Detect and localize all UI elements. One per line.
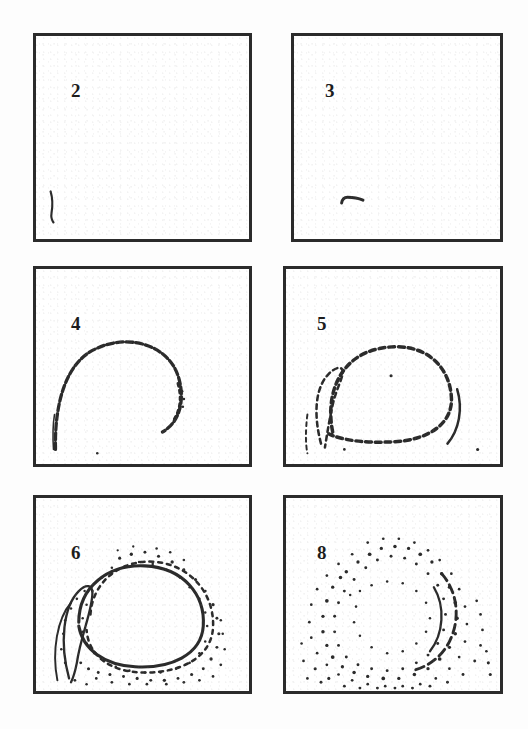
panel-label-4: 4	[71, 314, 81, 333]
panel-2-plot	[36, 36, 249, 239]
figure-sheet: 2 3 4	[0, 0, 528, 729]
panel-8-scatter	[300, 537, 492, 689]
panel-8: 8	[283, 495, 503, 694]
panel-label-3: 3	[325, 81, 335, 100]
panel-label-2: 2	[71, 81, 81, 100]
panel-6-plot	[36, 498, 249, 691]
panel-label-5: 5	[317, 314, 327, 333]
panel-5-plot	[286, 269, 500, 464]
panel-3-plot	[294, 36, 500, 239]
panel-8-plot	[286, 498, 500, 691]
panel-label-8: 8	[317, 543, 327, 562]
panel-4: 4	[33, 266, 252, 467]
panel-6: 6	[33, 495, 252, 694]
panel-2: 2	[33, 33, 252, 242]
panel-label-6: 6	[71, 543, 81, 562]
panel-3: 3	[291, 33, 503, 242]
panel-4-plot	[36, 269, 249, 464]
panel-5: 5	[283, 266, 503, 467]
